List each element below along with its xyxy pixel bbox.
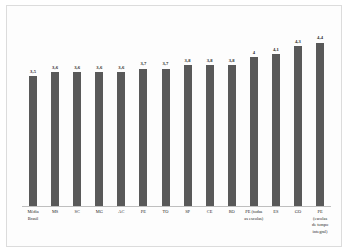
chart-frame: 3,53,63,63,63,63,73,73,83,83,844,14,34,4… [6,5,342,247]
bar-value-label: 3,6 [52,66,58,71]
category-label: MG [88,209,110,235]
category-label-line: ES [265,209,286,216]
bar-value-label: 4,1 [273,48,279,53]
bar-group: 3,8 [177,16,199,206]
bar-value-label: 3,7 [162,62,168,67]
plot-area: 3,53,63,63,63,63,73,73,83,83,844,14,34,4… [22,16,331,236]
bar-group: 3,5 [22,16,44,206]
bar-group: 3,6 [66,16,88,206]
bar-group: 4 [243,16,265,206]
bar-value-label: 3,6 [96,66,102,71]
category-labels-container: MédiaBrasilMSSCMGACPETOSPCEROPE (todasas… [22,209,331,235]
bar-value-label: 3,8 [207,59,213,64]
category-label: RO [221,209,243,235]
bar-group: 4,1 [265,16,287,206]
bar[interactable] [184,65,192,206]
bar[interactable] [117,72,125,206]
category-label-line: MG [89,209,110,216]
bar-chart-figure: 3,53,63,63,63,63,73,73,83,83,844,14,34,4… [0,0,347,252]
category-label-line: Média [23,209,44,216]
bar[interactable] [272,54,280,206]
bar-value-label: 3,8 [185,59,191,64]
bar-group: 3,8 [221,16,243,206]
bar-group: 3,7 [132,16,154,206]
category-label: PE(escolasde tempointegral) [309,209,331,235]
bar-group: 3,6 [110,16,132,206]
bar[interactable] [51,72,59,206]
category-label: MS [44,209,66,235]
category-label-line: PE (todas [243,209,264,216]
bar[interactable] [316,43,324,206]
bar-value-label: 3,5 [30,70,36,75]
bar-group: 4,3 [287,16,309,206]
bar-group: 3,6 [88,16,110,206]
category-label-line: CE [199,209,220,216]
category-label: SP [177,209,199,235]
category-label-line: integral) [310,229,331,236]
category-label-line: PE [133,209,154,216]
bar-value-label: 4 [253,51,255,56]
category-label-line: SC [67,209,88,216]
bar-group: 3,7 [154,16,176,206]
bar[interactable] [29,76,37,206]
category-label-line: GO [287,209,308,216]
bar-value-label: 3,6 [118,66,124,71]
bar-value-label: 3,8 [229,59,235,64]
bar[interactable] [95,72,103,206]
category-label-line: as escolas) [243,216,264,223]
category-label: CE [199,209,221,235]
bar-value-label: 4,4 [317,36,323,41]
bar-value-label: 3,7 [140,62,146,67]
category-label: ES [265,209,287,235]
bar[interactable] [228,65,236,206]
category-label: MédiaBrasil [22,209,44,235]
category-label-line: PE [310,209,331,216]
bar[interactable] [206,65,214,206]
category-label-line: MS [45,209,66,216]
category-label-line: AC [111,209,132,216]
bar-group: 4,4 [309,16,331,206]
category-label-line: RO [221,209,242,216]
bar-group: 3,6 [44,16,66,206]
bar-value-label: 3,6 [74,66,80,71]
bar[interactable] [162,69,170,206]
category-label: SC [66,209,88,235]
category-label-line: de tempo [310,222,331,229]
category-label: PE [132,209,154,235]
x-axis-line [22,206,331,207]
category-label: GO [287,209,309,235]
category-label-line: Brasil [23,216,44,223]
bar-value-label: 4,3 [295,40,301,45]
category-label: AC [110,209,132,235]
category-label-line: SP [177,209,198,216]
category-label-line: (escolas [310,216,331,223]
category-label-line: TO [155,209,176,216]
bar[interactable] [73,72,81,206]
bars-container: 3,53,63,63,63,63,73,73,83,83,844,14,34,4 [22,16,331,206]
category-label: PE (todasas escolas) [243,209,265,235]
bar[interactable] [139,69,147,206]
bar-group: 3,8 [199,16,221,206]
bar[interactable] [294,46,302,206]
category-label: TO [154,209,176,235]
bar[interactable] [250,57,258,206]
